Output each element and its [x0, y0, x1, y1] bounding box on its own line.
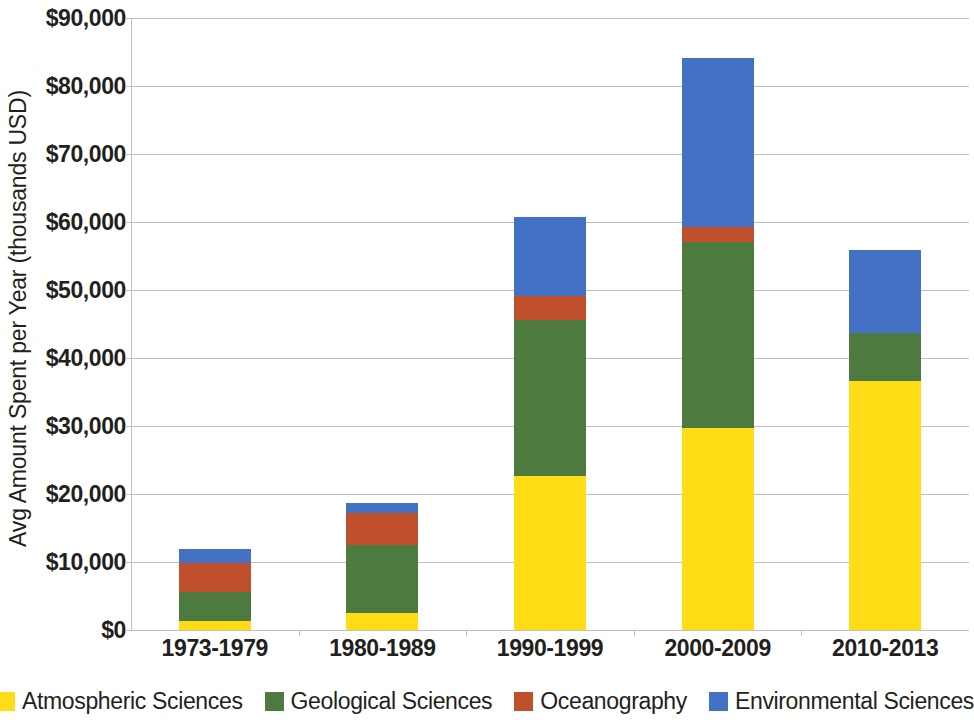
y-axis-tick-labels: $0$10,000$20,000$30,000$40,000$50,000$60…: [0, 0, 126, 660]
bar-1980-1989[interactable]: [346, 503, 418, 630]
bar-segment-atmospheric-sciences[interactable]: [346, 613, 418, 630]
x-axis-tick-label: 1980-1989: [299, 636, 467, 661]
legend-swatch-icon: [0, 692, 15, 711]
x-axis-tick-mark: [466, 630, 467, 636]
y-axis-tick-label: $30,000: [6, 415, 126, 438]
y-axis-tick-mark: [125, 290, 132, 291]
y-axis-tick-label: $50,000: [6, 279, 126, 302]
bar-segment-oceanography[interactable]: [179, 563, 251, 592]
bar-segment-oceanography[interactable]: [346, 513, 418, 545]
legend-label: Oceanography: [540, 690, 687, 713]
legend-swatch-icon: [709, 692, 728, 711]
legend-swatch-icon: [514, 692, 533, 711]
bar-segment-environmental-sciences[interactable]: [346, 503, 418, 513]
y-axis-tick-label: $40,000: [6, 347, 126, 370]
x-axis-tick-label: 2010-2013: [801, 636, 969, 661]
bar-segment-oceanography[interactable]: [682, 227, 754, 242]
y-axis-tick-label: $90,000: [6, 7, 126, 30]
legend-swatch-icon: [265, 692, 284, 711]
bar-1990-1999[interactable]: [514, 217, 586, 630]
x-axis-tick-mark: [299, 630, 300, 636]
x-axis-tick-label: 1990-1999: [466, 636, 634, 661]
y-axis-tick-mark: [125, 86, 132, 87]
bar-segment-geological-sciences[interactable]: [179, 592, 251, 621]
y-axis-tick-mark: [125, 222, 132, 223]
bar-segment-environmental-sciences[interactable]: [682, 58, 754, 227]
legend-item-environmental-sciences[interactable]: Environmental Sciences: [709, 690, 974, 713]
y-axis-tick-label: $60,000: [6, 211, 126, 234]
legend-item-oceanography[interactable]: Oceanography: [514, 690, 687, 713]
y-axis-tick-mark: [125, 154, 132, 155]
bar-1973-1979[interactable]: [179, 549, 251, 630]
y-axis-tick-mark: [125, 562, 132, 563]
y-axis-tick-mark: [125, 426, 132, 427]
y-axis-tick-label: $10,000: [6, 551, 126, 574]
gridline: [131, 18, 969, 19]
bar-segment-atmospheric-sciences[interactable]: [179, 621, 251, 630]
gridline: [131, 630, 969, 631]
y-axis-tick-mark: [125, 358, 132, 359]
x-axis-tick-label: 1973-1979: [131, 636, 299, 661]
x-axis-tick-mark: [634, 630, 635, 636]
legend-label: Atmospheric Sciences: [22, 690, 243, 713]
bar-segment-geological-sciences[interactable]: [346, 545, 418, 613]
y-axis-tick-label: $70,000: [6, 143, 126, 166]
x-axis-tick-mark: [801, 630, 802, 636]
bar-2010-2013[interactable]: [849, 250, 921, 630]
y-axis-tick-label: $80,000: [6, 75, 126, 98]
chart-legend: Atmospheric SciencesGeological SciencesO…: [0, 682, 970, 720]
gridline: [131, 86, 969, 87]
x-axis-tick-label: 2000-2009: [634, 636, 802, 661]
bar-segment-oceanography[interactable]: [514, 296, 586, 320]
y-axis-tick-label: $0: [6, 619, 126, 642]
bar-segment-atmospheric-sciences[interactable]: [849, 381, 921, 630]
y-axis-tick-label: $20,000: [6, 483, 126, 506]
bar-segment-environmental-sciences[interactable]: [514, 217, 586, 296]
legend-item-geological-sciences[interactable]: Geological Sciences: [265, 690, 493, 713]
bar-segment-atmospheric-sciences[interactable]: [682, 428, 754, 630]
legend-label: Environmental Sciences: [735, 690, 974, 713]
gridline: [131, 154, 969, 155]
y-axis-tick-mark: [125, 630, 132, 631]
y-axis-tick-mark: [125, 18, 132, 19]
plot-area: [131, 18, 969, 630]
bar-segment-geological-sciences[interactable]: [849, 333, 921, 381]
legend-label: Geological Sciences: [291, 690, 493, 713]
y-axis-tick-mark: [125, 494, 132, 495]
bar-segment-geological-sciences[interactable]: [514, 320, 586, 476]
bar-segment-environmental-sciences[interactable]: [849, 250, 921, 333]
x-axis-tick-labels: 1973-19791980-19891990-19992000-20092010…: [131, 636, 969, 670]
bar-2000-2009[interactable]: [682, 58, 754, 630]
bar-segment-environmental-sciences[interactable]: [179, 549, 251, 563]
legend-item-atmospheric-sciences[interactable]: Atmospheric Sciences: [0, 690, 243, 713]
bar-segment-geological-sciences[interactable]: [682, 242, 754, 428]
bar-segment-atmospheric-sciences[interactable]: [514, 476, 586, 630]
